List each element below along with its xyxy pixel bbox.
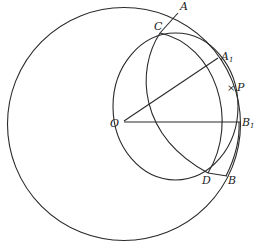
- segment-O-A1: [124, 58, 218, 121]
- label-B: B: [228, 175, 236, 186]
- label-A: A: [180, 1, 188, 12]
- label-D: D: [202, 175, 211, 186]
- label-B1: B1: [242, 117, 255, 128]
- geometry-diagram: A C A1 × P O B1 D B: [0, 0, 258, 249]
- arc-C-D-left: [146, 33, 208, 173]
- marker-P: ×: [227, 83, 235, 93]
- inner-circle: [113, 33, 238, 180]
- label-A1: A1: [221, 51, 233, 62]
- diagram-canvas: [0, 0, 258, 249]
- arc-C-D-right: [160, 33, 222, 173]
- arc-B1-B: [226, 122, 239, 176]
- label-C: C: [154, 21, 162, 32]
- label-P: P: [237, 82, 244, 93]
- label-O: O: [110, 118, 119, 129]
